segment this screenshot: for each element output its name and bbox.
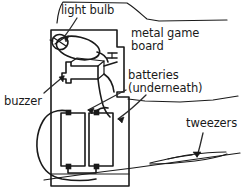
bulb-glass: [54, 32, 102, 63]
battery-2-terminal-bottom: [94, 164, 99, 169]
label-batteries-line2: (underneath): [128, 81, 202, 95]
light-bulb-leader: [64, 18, 77, 37]
buzzer-wire-upper: [104, 74, 114, 92]
circuit-wires: [37, 108, 108, 181]
buzzer-body: [62, 62, 98, 83]
batteries-group: [61, 110, 113, 173]
label-light-bulb-text: light bulb: [61, 3, 114, 17]
battery-1-body: [61, 113, 85, 166]
label-metal-game-board: metal gameboard: [131, 27, 199, 52]
batteries-leader-2: [118, 95, 146, 119]
battery-1-terminal-bottom: [66, 164, 71, 169]
label-buzzer: buzzer: [4, 95, 42, 108]
light-bulb-shape: [50, 32, 108, 63]
label-batteries: batteries(underneath): [128, 69, 202, 94]
tweezers-inner-line: [168, 155, 192, 159]
terminal-wire: [104, 62, 117, 66]
diagram-canvas: light bulb metal gameboard batteries(und…: [0, 0, 242, 195]
battery-2-body: [89, 113, 113, 166]
label-buzzer-text: buzzer: [4, 94, 42, 108]
label-tweezers: tweezers: [186, 117, 237, 130]
label-metal-game-board-line2: board: [131, 39, 164, 53]
tweezers-shape: [150, 152, 227, 164]
label-tweezers-text: tweezers: [186, 116, 237, 130]
buzzer-side-face: [98, 61, 104, 79]
buzzer-wire-right: [98, 79, 110, 117]
left-loop-wire: [37, 110, 96, 180]
battery-series-jumper: [68, 169, 96, 173]
label-light-bulb: light bulb: [61, 4, 114, 17]
board-terminal-post: [104, 53, 117, 66]
